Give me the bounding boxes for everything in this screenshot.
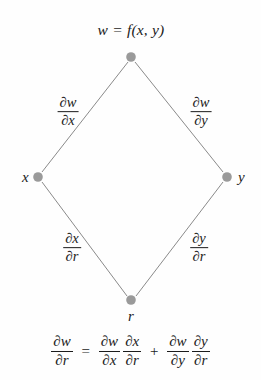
fraction-numerator: ∂x [123, 334, 141, 351]
node-r[interactable] [126, 295, 136, 305]
equals-sign: = [76, 343, 94, 360]
variable: w [67, 94, 77, 110]
partial-symbol: ∂ [194, 333, 201, 349]
equation-term-lhs: ∂w ∂r [51, 334, 72, 369]
partial-symbol: ∂ [194, 113, 201, 129]
equation-term-2b: ∂y ∂r [192, 334, 210, 369]
fraction-numerator: ∂w [167, 334, 188, 351]
variable: x [133, 333, 140, 349]
equation-term-2a: ∂w ∂y [167, 334, 188, 369]
edge-y-r [136, 182, 223, 296]
fraction-denominator: ∂y [191, 112, 212, 129]
fraction-denominator: ∂r [192, 351, 210, 369]
fraction-denominator: ∂y [167, 351, 188, 369]
edge-label-dx-dr: ∂x ∂r [63, 231, 81, 265]
fraction-numerator: ∂y [192, 334, 210, 351]
partial-symbol: ∂ [126, 352, 133, 368]
equation-term-1b: ∂x ∂r [123, 334, 141, 369]
fraction-numerator: ∂y [190, 231, 208, 247]
chain-rule-figure: w = f(x, y) x y r ∂w ∂x ∂w ∂y ∂x ∂r ∂y ∂… [0, 0, 261, 380]
node-x[interactable] [33, 172, 43, 182]
fraction-numerator: ∂w [58, 95, 79, 111]
variable: r [201, 352, 207, 368]
partial-symbol: ∂ [61, 113, 68, 129]
partial-symbol: ∂ [169, 333, 176, 349]
variable: w [108, 333, 118, 349]
node-label-y: y [238, 169, 245, 186]
variable: r [63, 352, 69, 368]
partial-symbol: ∂ [102, 352, 109, 368]
partial-symbol: ∂ [101, 333, 108, 349]
node-label-w: w = f(x, y) [98, 21, 165, 39]
node-w[interactable] [126, 52, 136, 62]
variable: y [201, 333, 208, 349]
equation-term-1a: ∂w ∂x [99, 334, 120, 369]
variable: x [68, 113, 74, 129]
fraction-dx-dr: ∂x ∂r [63, 231, 81, 265]
edge-label-dw-dy: ∂w ∂y [191, 95, 212, 129]
fraction-dw-dx: ∂w ∂x [58, 95, 79, 129]
variable: x [110, 352, 117, 368]
variable: y [201, 113, 207, 129]
partial-symbol: ∂ [55, 352, 62, 368]
fraction-denominator: ∂r [51, 351, 72, 369]
edge-x-r [42, 182, 127, 296]
partial-symbol: ∂ [125, 333, 132, 349]
variable: r [133, 352, 139, 368]
fraction-denominator: ∂x [99, 351, 120, 369]
fraction-denominator: ∂x [58, 112, 79, 129]
edge-label-dy-dr: ∂y ∂r [190, 231, 208, 265]
variable: w [200, 94, 210, 110]
chain-rule-equation: ∂w ∂r = ∂w ∂x ∂x ∂r + ∂w ∂y ∂y ∂r [0, 334, 261, 369]
fraction-denominator: ∂r [63, 248, 81, 265]
partial-symbol: ∂ [53, 333, 60, 349]
variable: w [61, 333, 71, 349]
plus-sign: + [145, 343, 163, 360]
fraction-denominator: ∂r [190, 248, 208, 265]
partial-symbol: ∂ [66, 249, 73, 265]
node-label-r: r [128, 308, 134, 325]
fraction-dy-dr: ∂y ∂r [190, 231, 208, 265]
fraction-denominator: ∂r [123, 351, 141, 369]
edge-w-x [42, 62, 128, 172]
variable: x [72, 230, 78, 246]
fraction-dw-dy: ∂w ∂y [191, 95, 212, 129]
node-label-x: x [22, 169, 29, 186]
variable: r [200, 249, 206, 265]
partial-symbol: ∂ [193, 249, 200, 265]
fraction-numerator: ∂x [63, 231, 81, 247]
variable: y [199, 230, 205, 246]
fraction-numerator: ∂w [51, 334, 72, 351]
variable: w [177, 333, 187, 349]
fraction-numerator: ∂w [99, 334, 120, 351]
node-y[interactable] [222, 172, 232, 182]
fraction-numerator: ∂w [191, 95, 212, 111]
tree-nodes [33, 52, 232, 305]
variable: r [73, 249, 79, 265]
edge-label-dw-dx: ∂w ∂x [58, 95, 79, 129]
variable: y [178, 352, 185, 368]
